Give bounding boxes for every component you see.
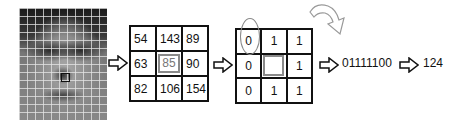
binary-cell: 1 [287, 54, 312, 79]
pixel-cell: 63 [130, 51, 156, 76]
pixel-cell: 54 [130, 26, 156, 51]
decimal-value: 124 [423, 56, 443, 70]
selected-region-box [61, 73, 70, 82]
center-pixel-cell: 85 [156, 51, 182, 76]
right-arrow-icon [213, 57, 233, 73]
center-box [263, 55, 284, 76]
binary-cell: 1 [287, 78, 312, 103]
pixel-cell: 154 [182, 76, 208, 101]
curved-arrow-icon [306, 0, 350, 40]
start-marker-oval [240, 18, 260, 55]
center-binary-cell [261, 54, 286, 79]
binary-cell: 0 [236, 78, 261, 103]
pixel-cell: 89 [182, 26, 208, 51]
binary-cell: 1 [261, 29, 286, 54]
grid-overlay [19, 8, 107, 120]
pixel-cell: 82 [130, 76, 156, 101]
pixel-cell: 106 [156, 76, 182, 101]
binary-cell: 1 [261, 78, 286, 103]
right-arrow-icon [319, 57, 339, 73]
face-image [19, 8, 107, 120]
binary-code: 01111100 [342, 56, 392, 70]
right-arrow-icon [399, 57, 419, 73]
pixel-cell: 90 [182, 51, 208, 76]
binary-cell: 0 [236, 54, 261, 79]
pixel-value-matrix: 54 143 89 63 85 90 82 106 154 [129, 25, 209, 102]
right-arrow-icon [108, 55, 128, 71]
pixel-cell: 143 [156, 26, 182, 51]
